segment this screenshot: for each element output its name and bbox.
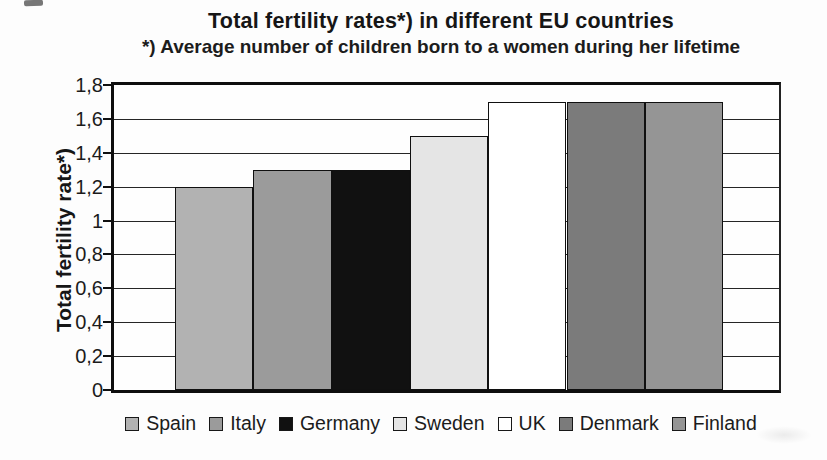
y-tick-mark <box>103 253 112 255</box>
y-tick-mark <box>103 84 112 86</box>
legend: SpainItalyGermanySwedenUKDenmarkFinland <box>60 412 822 435</box>
legend-swatch-icon <box>559 417 573 431</box>
bar-denmark <box>567 102 645 390</box>
y-tick-mark <box>103 389 112 391</box>
y-tick-mark <box>103 152 112 154</box>
y-tick-label: 0 <box>51 379 103 402</box>
legend-label: Sweden <box>414 412 484 435</box>
scanned-chart-page: Total fertility rates*) in different EU … <box>0 0 827 460</box>
legend-swatch-icon <box>672 417 686 431</box>
plot-area <box>111 82 781 393</box>
y-tick-label: 0,8 <box>51 243 103 266</box>
y-tick-mark <box>103 355 112 357</box>
bar-uk <box>488 102 566 390</box>
bar-spain <box>175 187 253 390</box>
y-tick-label: 1,6 <box>51 107 103 130</box>
y-tick-label: 0,2 <box>51 345 103 368</box>
legend-label: Italy <box>230 412 266 435</box>
legend-item-finland: Finland <box>672 412 757 435</box>
y-tick-mark <box>103 287 112 289</box>
legend-item-sweden: Sweden <box>393 412 484 435</box>
bars-layer <box>114 85 779 390</box>
legend-label: UK <box>519 412 546 435</box>
legend-swatch-icon <box>498 417 512 431</box>
legend-label: Germany <box>300 412 380 435</box>
scan-artifact-bottom <box>756 426 812 444</box>
y-tick-label: 0,6 <box>51 277 103 300</box>
legend-label: Finland <box>693 412 757 435</box>
legend-label: Spain <box>146 412 196 435</box>
y-tick-mark <box>103 220 112 222</box>
legend-label: Denmark <box>580 412 659 435</box>
chart-title: Total fertility rates*) in different EU … <box>60 8 822 35</box>
legend-swatch-icon <box>393 417 407 431</box>
chart-subtitle: *) Average number of children born to a … <box>60 35 822 59</box>
y-tick-mark <box>103 186 112 188</box>
legend-item-spain: Spain <box>125 412 196 435</box>
y-tick-mark <box>103 118 112 120</box>
y-tick-mark <box>103 321 112 323</box>
legend-item-italy: Italy <box>209 412 266 435</box>
legend-item-germany: Germany <box>279 412 380 435</box>
legend-swatch-icon <box>125 417 139 431</box>
y-tick-label: 0,4 <box>51 311 103 334</box>
y-tick-label: 1 <box>51 209 103 232</box>
bar-sweden <box>410 136 488 390</box>
legend-swatch-icon <box>209 417 223 431</box>
scan-artifact-top <box>24 0 43 6</box>
bar-italy <box>253 170 331 390</box>
legend-item-denmark: Denmark <box>559 412 659 435</box>
title-block: Total fertility rates*) in different EU … <box>60 8 822 59</box>
bar-finland <box>645 102 723 390</box>
y-tick-label: 1,4 <box>51 141 103 164</box>
y-tick-label: 1,2 <box>51 175 103 198</box>
y-tick-label: 1,8 <box>51 74 103 97</box>
legend-item-uk: UK <box>498 412 546 435</box>
legend-swatch-icon <box>279 417 293 431</box>
bar-germany <box>332 170 410 390</box>
